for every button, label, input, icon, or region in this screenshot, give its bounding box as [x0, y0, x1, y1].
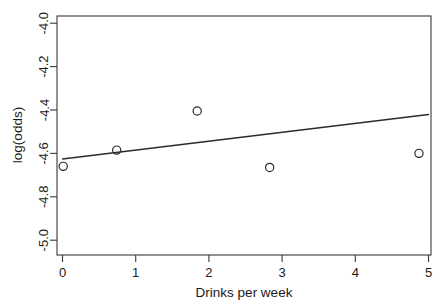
x-tick-label-0: 0	[59, 265, 66, 280]
y-tick-label-2: -4.4	[37, 99, 52, 121]
x-axis-title: Drinks per week	[196, 285, 293, 300]
data-points-group	[59, 107, 423, 172]
data-point	[415, 149, 423, 157]
y-tick-label-0: -4.0	[37, 12, 52, 34]
x-tick-label-1: 1	[132, 265, 139, 280]
plot-frame	[57, 16, 431, 255]
data-point	[193, 107, 201, 115]
regression-line	[63, 115, 429, 159]
x-tick-label-4: 4	[352, 265, 359, 280]
chart-figure: 0 1 2 3 4 5 -4.0 -4.2 -4.4 -4.6 -4.8 -5.…	[0, 0, 445, 306]
x-tick-label-2: 2	[205, 265, 212, 280]
y-tick-label-5: -5.0	[37, 229, 52, 251]
x-axis-tick-labels: 0 1 2 3 4 5	[59, 265, 432, 280]
x-tick-label-5: 5	[425, 265, 432, 280]
y-tick-label-1: -4.2	[37, 55, 52, 77]
x-axis-ticks	[63, 255, 429, 262]
x-tick-label-3: 3	[278, 265, 285, 280]
data-point	[266, 163, 274, 171]
y-tick-label-4: -4.8	[37, 186, 52, 208]
y-tick-label-3: -4.6	[37, 142, 52, 164]
scatter-plot-svg: 0 1 2 3 4 5 -4.0 -4.2 -4.4 -4.6 -4.8 -5.…	[0, 0, 445, 306]
y-axis-title: log(odds)	[10, 107, 25, 163]
y-axis-tick-labels: -4.0 -4.2 -4.4 -4.6 -4.8 -5.0	[37, 12, 52, 251]
data-point	[59, 162, 67, 170]
